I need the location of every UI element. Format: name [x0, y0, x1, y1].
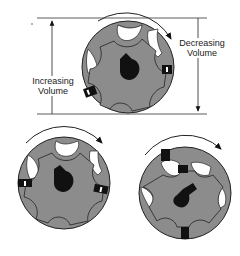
label-line: Decreasing: [174, 38, 230, 48]
gear-bottom-left: [18, 126, 110, 229]
increasing-volume-label: Increasing Volume: [26, 76, 80, 96]
gear-top: [82, 13, 174, 113]
gear-bottom-right: [139, 135, 231, 239]
decreasing-volume-label: Decreasing Volume: [174, 38, 230, 58]
label-line: Increasing: [26, 76, 80, 86]
label-line: Volume: [26, 86, 80, 96]
label-line: Volume: [174, 48, 230, 58]
